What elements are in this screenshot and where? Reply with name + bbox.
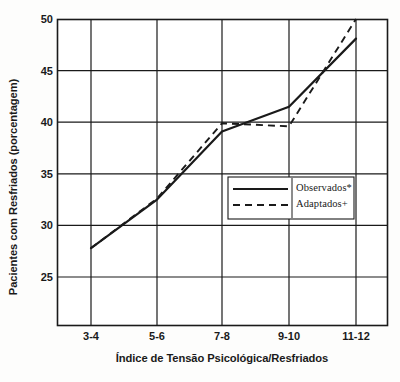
legend-label-adaptados: Adaptados+ — [296, 198, 348, 209]
legend-label-observados: Observados* — [296, 182, 352, 193]
line-chart: Pacientes com Resfriados (porcentagem) 5… — [0, 0, 400, 382]
